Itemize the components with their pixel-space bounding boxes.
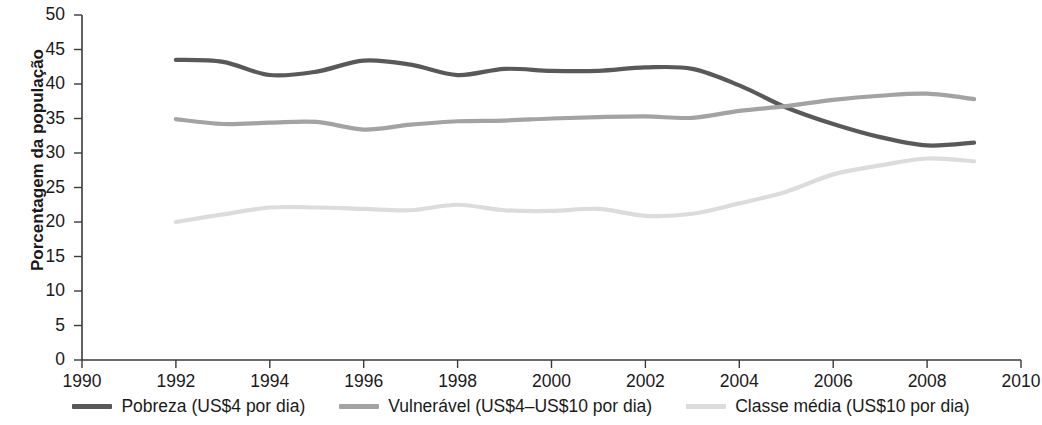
legend-item[interactable]: Vulnerável (US$4–US$10 por dia) xyxy=(339,396,652,417)
legend-swatch-icon xyxy=(686,404,726,409)
legend-swatch-icon xyxy=(72,404,112,409)
legend-item-label: Classe média (US$10 por dia) xyxy=(735,396,969,417)
legend-item-label: Vulnerável (US$4–US$10 por dia) xyxy=(388,396,652,417)
legend-item[interactable]: Classe média (US$10 por dia) xyxy=(686,396,969,417)
series-line xyxy=(176,94,974,130)
legend-item-label: Pobreza (US$4 por dia) xyxy=(121,396,305,417)
line-chart: Porcentagem da população 051015202530354… xyxy=(0,0,1042,425)
data-series xyxy=(176,60,974,222)
axes xyxy=(74,15,1021,368)
series-line xyxy=(176,60,974,146)
series-line xyxy=(176,158,974,222)
chart-legend: Pobreza (US$4 por dia)Vulnerável (US$4–U… xyxy=(0,396,1042,417)
plot-area xyxy=(0,0,1042,425)
legend-swatch-icon xyxy=(339,404,379,409)
legend-item[interactable]: Pobreza (US$4 por dia) xyxy=(72,396,305,417)
